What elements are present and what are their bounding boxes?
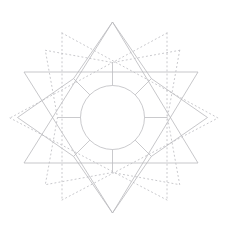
spoke-northwest (74, 79, 90, 95)
figure-canvas (0, 0, 230, 231)
dotted-chord-group (10, 33, 218, 200)
radial-spokes-group (58, 63, 168, 173)
star-figure-svg (0, 0, 230, 231)
spoke-southwest (74, 140, 90, 156)
dotted-chord-topright-to-left (10, 33, 167, 118)
dotted-chord-bottomright-to-left (10, 118, 167, 200)
inner-circle (81, 86, 145, 150)
spoke-northeast (135, 79, 151, 95)
dotted-chord-bottomleft-to-right (62, 118, 218, 200)
solid-chord-group (24, 22, 198, 213)
spoke-southeast (135, 140, 151, 156)
dotted-chord-topleft-to-right (62, 33, 218, 118)
